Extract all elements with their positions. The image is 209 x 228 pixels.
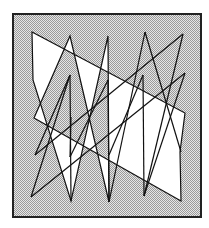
- polygon-figure: [0, 0, 209, 228]
